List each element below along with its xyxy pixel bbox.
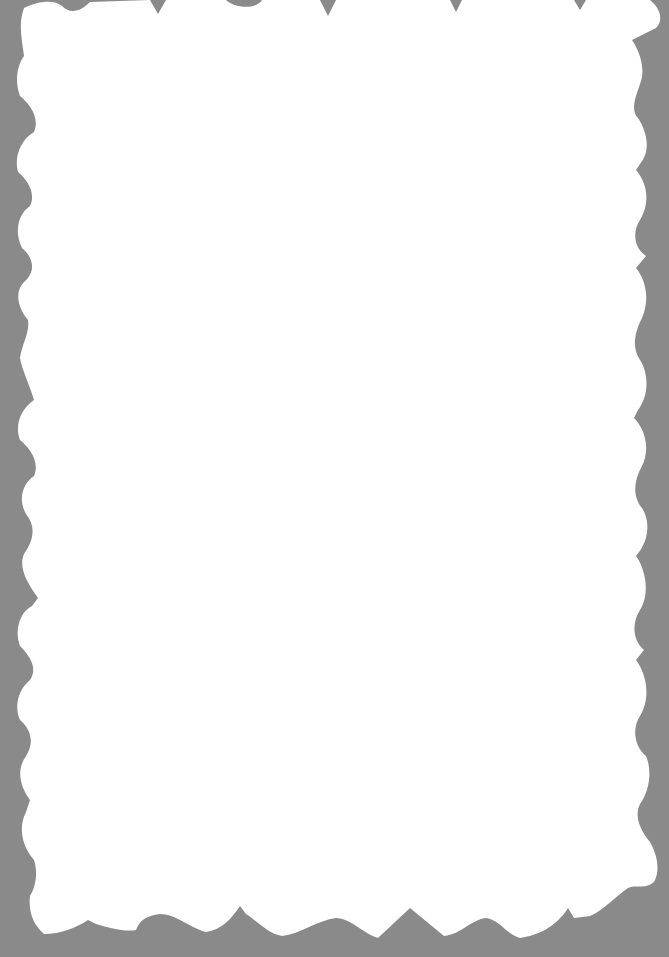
background-canvas [0,0,669,957]
scalloped-paper-sheet [17,0,660,938]
scene [0,0,669,957]
